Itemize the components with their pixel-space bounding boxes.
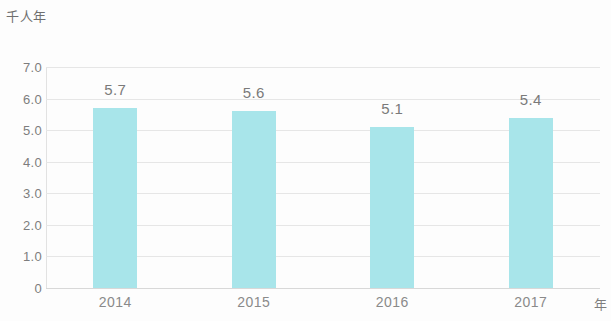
y-axis-tick-label: 5.0 xyxy=(2,123,42,138)
bar xyxy=(370,127,414,288)
gridline xyxy=(46,99,600,100)
y-axis-unit-label: 千人年 xyxy=(6,6,47,25)
plot-area xyxy=(46,67,600,288)
gridline xyxy=(46,288,600,289)
y-axis-tick-label: 2.0 xyxy=(2,217,42,232)
y-axis-tick-label: 0 xyxy=(2,281,42,296)
bar xyxy=(93,108,137,288)
x-axis-tick-label: 2016 xyxy=(376,294,409,310)
bar-value-label: 5.7 xyxy=(104,81,126,98)
bar-chart: 千人年 7.06.05.04.03.02.01.00 年 5.720145.62… xyxy=(0,0,611,321)
x-axis-tick-label: 2015 xyxy=(237,294,270,310)
bar-value-label: 5.4 xyxy=(520,91,542,108)
y-axis-tick-label: 6.0 xyxy=(2,91,42,106)
x-axis-unit-label: 年 xyxy=(594,294,607,313)
bar xyxy=(509,118,553,288)
y-axis-tick-label: 1.0 xyxy=(2,249,42,264)
x-axis-tick-label: 2014 xyxy=(99,294,132,310)
y-axis-tick-label: 7.0 xyxy=(2,60,42,75)
bar-value-label: 5.1 xyxy=(381,100,403,117)
bar xyxy=(232,111,276,288)
y-axis-tick-label: 4.0 xyxy=(2,154,42,169)
y-axis-line xyxy=(46,67,47,288)
y-axis-tick-label: 3.0 xyxy=(2,186,42,201)
y-axis-tick-labels: 7.06.05.04.03.02.01.00 xyxy=(0,67,42,288)
bar-value-label: 5.6 xyxy=(243,84,265,101)
x-axis-tick-label: 2017 xyxy=(514,294,547,310)
gridline xyxy=(46,67,600,68)
